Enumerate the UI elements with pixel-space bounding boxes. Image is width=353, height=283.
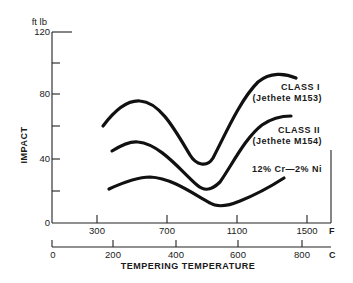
y-axis-title: IMPACT [19, 127, 29, 164]
series-class-i-sublabel: (Jethete M153) [252, 93, 322, 103]
series-class-ii-sublabel: (Jethete M154) [252, 136, 322, 146]
y-tick-120: 120 [34, 26, 50, 37]
c-ticks [52, 240, 302, 247]
series-class-ii-label: CLASS II [278, 125, 320, 135]
y-ticks [52, 63, 60, 191]
series-12cr-2ni-label: 12% Cr—2% Ni [252, 164, 322, 174]
c-tick-400: 400 [168, 249, 184, 260]
y-tick-0: 0 [45, 217, 50, 228]
f-tick-300: 300 [89, 225, 105, 236]
c-tick-800: 800 [294, 249, 310, 260]
f-unit-label: F [329, 226, 335, 236]
f-tick-1100: 1100 [227, 225, 247, 236]
c-tick-600: 600 [230, 249, 246, 260]
series-12cr-2ni-curve [109, 177, 284, 206]
series-class-i-curve [103, 74, 296, 164]
c-tick-0: 0 [50, 249, 55, 260]
c-tick-200: 200 [105, 249, 121, 260]
y-tick-80: 80 [39, 88, 50, 99]
f-ticks [97, 215, 307, 223]
y-tick-40: 40 [39, 153, 50, 164]
series-class-i-label: CLASS I [281, 82, 320, 92]
f-tick-700: 700 [159, 225, 175, 236]
f-tick-1500: 1500 [296, 225, 317, 236]
impact-vs-tempering-chart: ft lb 120 80 40 0 IMPACT 300 700 1100 15… [0, 0, 353, 283]
x-axis-title: TEMPERING TEMPERATURE [121, 261, 255, 271]
chart-svg: ft lb 120 80 40 0 IMPACT 300 700 1100 15… [0, 0, 353, 283]
c-unit-label: C [329, 250, 336, 260]
